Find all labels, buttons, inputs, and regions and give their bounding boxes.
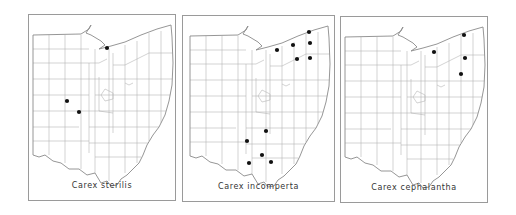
map-panel-carex-incomperta: Carex incomperta	[182, 15, 335, 202]
occurrence-dot	[295, 57, 299, 61]
occurrence-dot	[105, 46, 109, 50]
county-boundary	[33, 59, 107, 63]
occurrence-dot	[462, 33, 466, 37]
map-panel-carex-cephalantha: Carex cephalantha	[340, 16, 488, 203]
county-boundary	[113, 53, 173, 65]
map-panel-carex-sterilis: Carex sterilis	[28, 14, 176, 201]
county-boundary	[282, 84, 290, 86]
occurrence-dot	[275, 48, 279, 52]
county-boundary	[425, 55, 485, 67]
ohio-county-map	[183, 16, 336, 203]
occurrence-dot	[269, 160, 273, 164]
county-boundary	[125, 83, 133, 85]
county-boundary	[345, 61, 419, 65]
occurrence-dot	[459, 72, 463, 76]
occurrence-dot	[307, 30, 311, 34]
occurrence-dot	[291, 43, 295, 47]
occurrence-dot	[432, 50, 436, 54]
county-boundary	[190, 60, 264, 64]
occurrence-dot	[65, 99, 69, 103]
county-boundary	[270, 54, 330, 66]
species-caption: Carex incomperta	[183, 182, 334, 191]
ohio-county-map	[341, 17, 489, 204]
species-caption: Carex sterilis	[29, 181, 175, 190]
occurrence-dot	[260, 153, 264, 157]
occurrence-dot	[247, 161, 251, 165]
occurrence-dot	[308, 41, 312, 45]
occurrence-dot	[264, 129, 268, 133]
county-boundary	[437, 85, 445, 87]
occurrence-dot	[245, 139, 249, 143]
species-caption: Carex cephalantha	[341, 183, 487, 192]
occurrence-dot	[77, 110, 81, 114]
ohio-county-map	[29, 15, 177, 202]
occurrence-dot	[308, 56, 312, 60]
occurrence-dot	[463, 56, 467, 60]
